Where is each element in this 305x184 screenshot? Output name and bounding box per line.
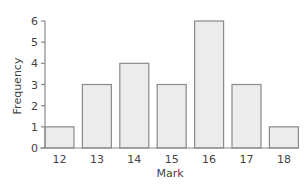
x-tick-label: 12 bbox=[53, 153, 67, 166]
y-tick-label: 2 bbox=[31, 100, 38, 113]
x-axis-title: Mark bbox=[156, 167, 184, 180]
x-tick-label: 17 bbox=[240, 153, 254, 166]
bar-mark-14 bbox=[120, 63, 149, 148]
y-tick-label: 0 bbox=[31, 142, 38, 155]
y-axis-title: Frequency bbox=[11, 57, 24, 114]
bar-mark-13 bbox=[82, 85, 111, 149]
bar-mark-15 bbox=[157, 85, 186, 149]
y-tick-label: 1 bbox=[31, 121, 38, 134]
y-tick-label: 3 bbox=[31, 79, 38, 92]
x-tick-label: 18 bbox=[277, 153, 291, 166]
y-axis-ticks: 0123456 bbox=[31, 15, 45, 155]
x-tick-label: 14 bbox=[127, 153, 141, 166]
y-tick-label: 5 bbox=[31, 36, 38, 49]
chart-canvas: 0123456 12131415161718 Mark Frequency bbox=[0, 0, 305, 184]
y-tick-label: 4 bbox=[31, 57, 38, 70]
x-axis-tick-labels: 12131415161718 bbox=[53, 153, 291, 166]
bar-mark-12 bbox=[45, 127, 74, 148]
x-tick-label: 13 bbox=[90, 153, 104, 166]
bar-mark-18 bbox=[269, 127, 298, 148]
bars bbox=[45, 21, 298, 148]
y-tick-label: 6 bbox=[31, 15, 38, 28]
bar-mark-17 bbox=[232, 85, 261, 149]
x-tick-label: 15 bbox=[165, 153, 179, 166]
x-tick-label: 16 bbox=[202, 153, 216, 166]
bar-mark-16 bbox=[195, 21, 224, 148]
